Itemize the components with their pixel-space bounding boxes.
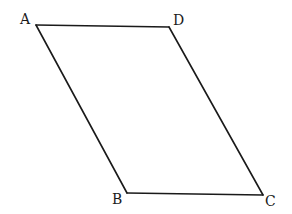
vertex-label-a: A <box>19 11 31 27</box>
edge-cb <box>127 193 263 195</box>
edge-dc <box>169 27 263 195</box>
edge-ba <box>36 25 127 193</box>
vertex-label-b: B <box>112 191 122 207</box>
edge-ad <box>36 25 169 27</box>
parallelogram-diagram: A D C B <box>0 0 292 214</box>
vertex-label-c: C <box>265 193 276 209</box>
vertex-label-d: D <box>173 12 184 28</box>
